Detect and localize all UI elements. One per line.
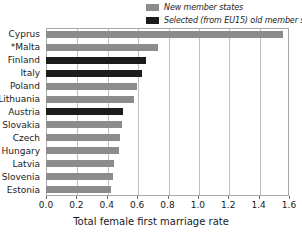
bar-latvia <box>46 160 114 167</box>
bar-row <box>46 80 289 93</box>
bar-slovakia <box>46 121 122 128</box>
category-label: Hungary <box>2 146 40 156</box>
bar-row <box>46 131 289 144</box>
legend-item-old-member-states: Selected (from EU15) old member states <box>146 15 302 26</box>
category-label-row: *Malta <box>0 41 43 54</box>
category-label-row: Hungary <box>0 144 43 157</box>
bar-row <box>46 144 289 157</box>
bar-row <box>46 41 289 54</box>
bar-row <box>46 54 289 67</box>
bar-row <box>46 106 289 119</box>
x-tick-label: 1.2 <box>221 199 235 211</box>
category-label-row: Czech <box>0 131 43 144</box>
x-tick-label: 0.2 <box>69 199 83 211</box>
category-label-row: Slovenia <box>0 170 43 183</box>
bar-malta <box>46 44 158 51</box>
x-tick-label: 1.0 <box>191 199 205 211</box>
x-tick-label: 0.0 <box>39 199 53 211</box>
bar-row <box>46 67 289 80</box>
bar-row <box>46 183 289 196</box>
bar-slovenia <box>46 173 113 180</box>
x-tick-label: 0.6 <box>130 199 144 211</box>
bar-chart: New member states Selected (from EU15) o… <box>0 0 302 240</box>
bar-row <box>46 28 289 41</box>
category-label: Slovakia <box>2 120 40 130</box>
x-tick-label: 0.8 <box>160 199 174 211</box>
bar-cyprus <box>46 31 283 38</box>
legend-swatch-old <box>146 17 159 24</box>
category-label: Lithuania <box>0 94 40 104</box>
bar-finland <box>46 57 146 64</box>
bar-row <box>46 157 289 170</box>
category-axis-labels: Cyprus*MaltaFinlandItalyPolandLithuaniaA… <box>0 28 43 196</box>
category-label: Latvia <box>13 159 40 169</box>
category-label: Poland <box>10 81 40 91</box>
category-label-row: Poland <box>0 80 43 93</box>
x-axis-tick-labels: 0.00.20.40.60.81.01.21.41.6 <box>0 199 302 212</box>
category-label: Austria <box>8 107 40 117</box>
category-label-row: Latvia <box>0 157 43 170</box>
x-axis-title: Total female first marriage rate <box>0 216 302 228</box>
bar-hungary <box>46 147 119 154</box>
bar-poland <box>46 83 137 90</box>
bars-layer <box>46 28 289 196</box>
bar-row <box>46 170 289 183</box>
category-label-row: Finland <box>0 54 43 67</box>
bar-lithuania <box>46 96 134 103</box>
legend-label-new: New member states <box>164 3 243 13</box>
x-tick-label: 1.4 <box>251 199 265 211</box>
bar-czech <box>46 134 120 141</box>
bar-estonia <box>46 186 111 193</box>
x-tick-label: 0.4 <box>100 199 114 211</box>
category-label-row: Estonia <box>0 183 43 196</box>
category-label: Italy <box>20 68 40 78</box>
category-label-row: Austria <box>0 106 43 119</box>
category-label-row: Italy <box>0 67 43 80</box>
legend-item-new-member-states: New member states <box>146 2 302 13</box>
bar-italy <box>46 70 142 77</box>
bar-austria <box>46 108 123 115</box>
category-label: Czech <box>13 133 40 143</box>
category-label: Cyprus <box>9 29 40 39</box>
x-tick-label: 1.6 <box>282 199 296 211</box>
category-label: Estonia <box>7 185 40 195</box>
bar-row <box>46 93 289 106</box>
category-label-row: Slovakia <box>0 118 43 131</box>
category-label-row: Lithuania <box>0 93 43 106</box>
category-label: *Malta <box>11 42 40 52</box>
category-label: Slovenia <box>2 172 40 182</box>
legend-label-old: Selected (from EU15) old member states <box>164 16 302 26</box>
category-label-row: Cyprus <box>0 28 43 41</box>
chart-legend: New member states Selected (from EU15) o… <box>146 2 302 28</box>
category-label: Finland <box>8 55 40 65</box>
legend-swatch-new <box>146 4 159 11</box>
bar-row <box>46 118 289 131</box>
